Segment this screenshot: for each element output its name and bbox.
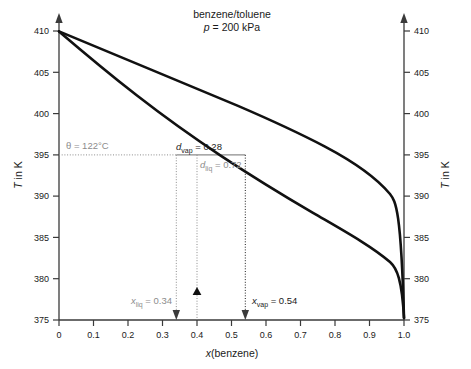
boiling-point-curve [59,31,404,318]
x-tick-label-0.8: 0.8 [329,330,342,340]
y-tick-label-390: 390 [34,191,49,201]
x-tick-label-0.7: 0.7 [294,330,307,340]
annotation-x-liq: xliq = 0.34 [130,295,172,309]
annotation-temperature: θ = 122°C [66,140,109,151]
x-vap-arrowhead [242,310,249,320]
y-axis-right-arrowhead [400,13,407,23]
x-tick-label-0.5: 0.5 [225,330,238,340]
x-liq-arrowhead [173,310,180,320]
chart-title: benzene/toluene [193,8,271,20]
y-tick-label-right-400: 400 [414,109,429,119]
y-axis-right-title: T in K [439,161,451,188]
x-tick-label-0.3: 0.3 [156,330,169,340]
y-tick-label-410: 410 [34,26,49,36]
y-axis-left-arrowhead [55,13,62,23]
y-axis-left-ticks [53,31,59,320]
y-axis-left-title: T in K [12,161,24,188]
y-tick-label-right-405: 405 [414,68,429,78]
x-tick-label-1.0: 1.0 [398,330,411,340]
y-tick-label-right-385: 385 [414,233,429,243]
x-tick-label-0.9: 0.9 [363,330,376,340]
x-axis-ticks [59,320,404,326]
chart-subtitle: p = 200 kPa [203,21,261,33]
x-axis: 0 0.1 0.2 0.3 0.4 0.5 0.6 0.7 0.8 0.9 1.… [56,320,410,359]
overall-composition-marker [193,287,202,295]
annotation-d-liq: dliq = 0.72 [200,159,242,173]
y-tick-label-375: 375 [34,315,49,325]
x-tick-label-0.1: 0.1 [87,330,100,340]
y-axis-right: 375 380 385 390 395 400 405 410 T in K [400,13,451,325]
y-tick-label-385: 385 [34,233,49,243]
y-axis-left: 375 380 385 390 395 400 405 410 T in K [12,13,63,325]
y-tick-label-405: 405 [34,68,49,78]
chart-canvas: benzene/toluene p = 200 kPa 375 380 385 [0,0,471,369]
y-axis-right-ticks [404,31,410,320]
x-axis-title: x(benzene) [205,347,259,359]
annotation-x-vap: xvap = 0.54 [251,295,297,309]
y-tick-label-right-395: 395 [414,150,429,160]
x-tick-label-0: 0 [56,330,61,340]
y-tick-label-right-390: 390 [414,191,429,201]
y-tick-label-right-375: 375 [414,315,429,325]
y-tick-label-400: 400 [34,109,49,119]
y-tick-label-380: 380 [34,274,49,284]
x-tick-label-0.4: 0.4 [191,330,204,340]
y-tick-label-right-380: 380 [414,274,429,284]
x-tick-label-0.6: 0.6 [260,330,273,340]
y-tick-label-right-410: 410 [414,26,429,36]
y-tick-label-395: 395 [34,150,49,160]
phase-diagram-figure: benzene/toluene p = 200 kPa 375 380 385 [0,0,471,369]
x-tick-label-0.2: 0.2 [122,330,135,340]
